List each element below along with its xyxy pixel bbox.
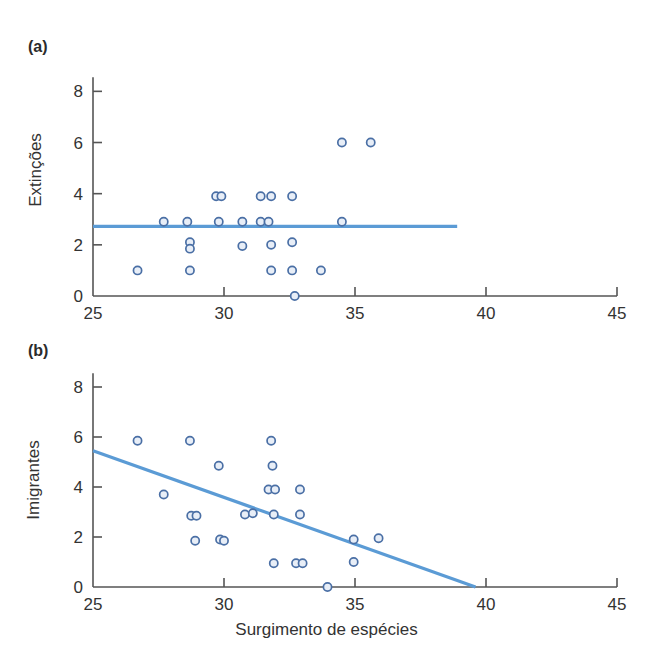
- data-point: [267, 192, 275, 200]
- data-point: [270, 559, 278, 567]
- regression-line: [93, 451, 476, 587]
- data-point: [192, 512, 200, 520]
- data-point: [317, 266, 325, 274]
- data-point: [133, 437, 141, 445]
- data-point: [338, 218, 346, 226]
- figure-container: (a) Extinções 024682530354045 (b) Imigra…: [0, 0, 653, 657]
- data-point: [183, 218, 191, 226]
- data-point: [186, 437, 194, 445]
- x-tick-label: 25: [84, 595, 103, 614]
- y-tick-label: 0: [74, 287, 83, 306]
- panel-a: (a) Extinções 024682530354045: [0, 0, 653, 330]
- data-point: [215, 218, 223, 226]
- data-point: [215, 462, 223, 470]
- y-tick-label: 4: [74, 185, 83, 204]
- data-point: [268, 462, 276, 470]
- data-point: [350, 558, 358, 566]
- data-point: [238, 218, 246, 226]
- data-point: [191, 537, 199, 545]
- x-tick-label: 30: [215, 595, 234, 614]
- data-point: [267, 437, 275, 445]
- data-point: [288, 238, 296, 246]
- data-point: [186, 266, 194, 274]
- data-point: [267, 266, 275, 274]
- data-point: [160, 218, 168, 226]
- y-tick-label: 2: [74, 528, 83, 547]
- data-point: [296, 510, 304, 518]
- data-point: [238, 242, 246, 250]
- x-tick-label: 40: [477, 595, 496, 614]
- data-point: [217, 192, 225, 200]
- data-point: [220, 537, 228, 545]
- data-point: [288, 266, 296, 274]
- panel-b: (b) Imigrantes Surgimento de espécies 02…: [0, 320, 653, 657]
- y-tick-label: 2: [74, 236, 83, 255]
- data-point: [299, 559, 307, 567]
- x-tick-label: 45: [608, 595, 627, 614]
- y-tick-label: 4: [74, 478, 83, 497]
- data-point: [133, 266, 141, 274]
- panel-a-plot: 024682530354045: [0, 0, 653, 330]
- y-tick-label: 8: [74, 82, 83, 101]
- data-point: [374, 534, 382, 542]
- data-point: [323, 583, 331, 591]
- data-point: [267, 241, 275, 249]
- data-point: [241, 510, 249, 518]
- data-point: [270, 510, 278, 518]
- data-point: [160, 490, 168, 498]
- y-tick-label: 6: [74, 134, 83, 153]
- y-tick-label: 0: [74, 578, 83, 597]
- data-point: [264, 218, 272, 226]
- data-point: [338, 138, 346, 146]
- data-point: [271, 485, 279, 493]
- y-tick-label: 6: [74, 428, 83, 447]
- data-point: [291, 292, 299, 300]
- data-point: [288, 192, 296, 200]
- data-point: [186, 245, 194, 253]
- data-point: [249, 509, 257, 517]
- data-point: [367, 138, 375, 146]
- y-tick-label: 8: [74, 378, 83, 397]
- panel-b-plot: 024682530354045: [0, 320, 653, 657]
- data-point: [257, 192, 265, 200]
- data-point: [350, 535, 358, 543]
- data-point: [296, 485, 304, 493]
- x-tick-label: 35: [346, 595, 365, 614]
- data-point: [257, 218, 265, 226]
